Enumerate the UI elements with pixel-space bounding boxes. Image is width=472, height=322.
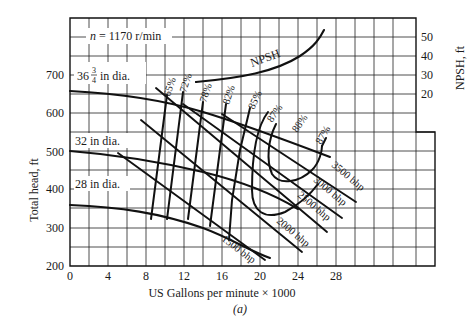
eff-78-label: 78% — [197, 82, 213, 104]
npsh-axis-ticks: 50 40 30 20 — [421, 30, 433, 101]
svg-text:0: 0 — [67, 269, 73, 283]
speed-annotation: n = 1170 r/min — [90, 29, 161, 43]
svg-text:500: 500 — [46, 145, 64, 159]
svg-text:400: 400 — [46, 182, 64, 196]
eff-87-label-right: 87% — [313, 124, 332, 146]
svg-text:36: 36 — [77, 69, 89, 83]
svg-text:4: 4 — [105, 269, 111, 283]
svg-text:40: 40 — [421, 49, 433, 63]
y-axis-ticks: 200 300 400 500 600 700 — [46, 68, 64, 273]
eff-72-line — [167, 92, 183, 219]
svg-text:3: 3 — [92, 66, 96, 75]
bhp-2500-line — [156, 88, 327, 232]
svg-text:20: 20 — [254, 269, 266, 283]
svg-text:16: 16 — [216, 269, 228, 283]
y-axis-title: Total head, ft — [27, 158, 41, 222]
svg-text:200: 200 — [46, 259, 64, 273]
label-28-in-dia: 28 in dia. — [75, 177, 120, 191]
eff-85-line — [229, 108, 250, 240]
pump-performance-chart: n = 1170 r/min 36 3 4 in dia. 32 in dia.… — [0, 0, 472, 322]
eff-82-label: 82% — [220, 84, 236, 106]
bhp-1500-label: 1500 bhp — [220, 233, 258, 265]
label-32-in-dia: 32 in dia. — [75, 134, 120, 148]
svg-text:700: 700 — [46, 68, 64, 82]
svg-text:4: 4 — [92, 76, 96, 85]
svg-text:28: 28 — [330, 269, 342, 283]
x-axis-ticks: 0 4 8 12 16 20 24 28 — [67, 269, 342, 283]
svg-text:50: 50 — [421, 30, 433, 44]
svg-text:20: 20 — [421, 87, 433, 101]
svg-text:in dia.: in dia. — [100, 69, 130, 83]
svg-text:30: 30 — [421, 68, 433, 82]
label-36-3-4-in-dia: 36 3 4 in dia. — [77, 66, 130, 85]
svg-text:12: 12 — [178, 269, 190, 283]
x-axis-title: US Gallons per minute × 1000 — [148, 286, 295, 300]
svg-text:8: 8 — [143, 269, 149, 283]
npsh-axis-title: NPSH, ft — [453, 45, 467, 90]
svg-text:24: 24 — [292, 269, 304, 283]
eff-85-label: 85% — [246, 89, 264, 111]
svg-text:600: 600 — [46, 106, 64, 120]
figure-caption: (a) — [233, 302, 247, 316]
svg-text:300: 300 — [46, 221, 64, 235]
eff-88-label: 88% — [290, 112, 310, 134]
